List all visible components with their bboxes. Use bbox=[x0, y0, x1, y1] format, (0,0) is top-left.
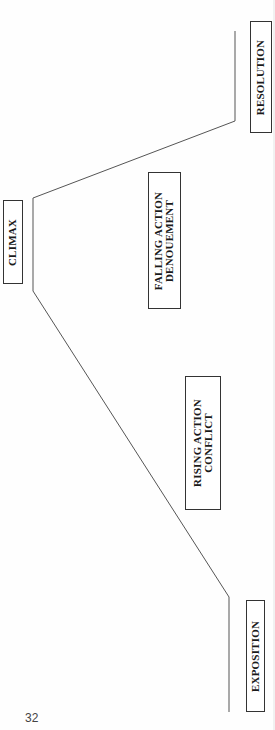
exposition-label-box: EXPOSITION bbox=[246, 600, 265, 712]
exposition-label: EXPOSITION bbox=[250, 620, 261, 691]
page-number: 32 bbox=[25, 711, 38, 725]
rising-action-label: RISING ACTION CONFLICT bbox=[192, 399, 214, 487]
resolution-label-box: RESOLUTION bbox=[250, 21, 272, 133]
rising-action-label-box: RISING ACTION CONFLICT bbox=[185, 376, 221, 510]
falling-action-label: FALLING ACTION DENOUEMENT bbox=[154, 191, 176, 289]
falling-action-label-box: FALLING ACTION DENOUEMENT bbox=[148, 172, 181, 309]
conflict-text: CONFLICT bbox=[203, 399, 214, 487]
exposition-text: EXPOSITION bbox=[250, 620, 261, 691]
climax-label-box: CLIMAX bbox=[3, 200, 23, 284]
climax-text: CLIMAX bbox=[8, 218, 19, 265]
resolution-text: RESOLUTION bbox=[256, 39, 267, 114]
denouement-text: DENOUEMENT bbox=[165, 191, 176, 289]
plot-arc-line bbox=[33, 31, 235, 712]
climax-label: CLIMAX bbox=[8, 218, 19, 265]
resolution-label: RESOLUTION bbox=[256, 39, 267, 114]
document-page: EXPOSITION RISING ACTION CONFLICT CLIMAX… bbox=[0, 0, 275, 730]
plot-line-diagram bbox=[0, 0, 275, 730]
